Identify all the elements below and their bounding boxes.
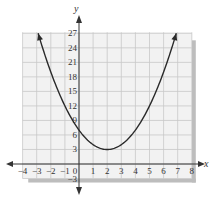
y-tick-label: 24 — [68, 43, 78, 53]
y-tick-label: 27 — [68, 28, 78, 38]
x-tick-label: −3 — [32, 166, 42, 176]
grid-lines — [23, 32, 192, 178]
x-axis-label: x — [203, 158, 209, 169]
x-tick-label: −2 — [46, 166, 56, 176]
x-tick-label: 7 — [175, 166, 180, 176]
x-tick-label: 4 — [133, 166, 138, 176]
x-tick-label: 1 — [91, 166, 96, 176]
y-tick-label: 21 — [68, 57, 77, 67]
x-tick-label: 3 — [119, 166, 124, 176]
parabola-chart: −4−3−2−1012345678 −3369121518212427 x y — [0, 0, 217, 202]
x-tick-label: 6 — [161, 166, 166, 176]
y-tick-label: 15 — [68, 86, 78, 96]
y-tick-label: 12 — [68, 101, 77, 111]
y-tick-label: 6 — [73, 130, 78, 140]
y-tick-label: 3 — [73, 144, 78, 154]
x-tick-label: 8 — [190, 166, 195, 176]
y-tick-label: −3 — [67, 174, 77, 184]
x-tick-label: 2 — [105, 166, 110, 176]
x-tick-label: −4 — [18, 166, 28, 176]
y-axis-label: y — [73, 3, 79, 14]
x-tick-label: 5 — [147, 166, 152, 176]
y-tick-label: 18 — [68, 72, 78, 82]
